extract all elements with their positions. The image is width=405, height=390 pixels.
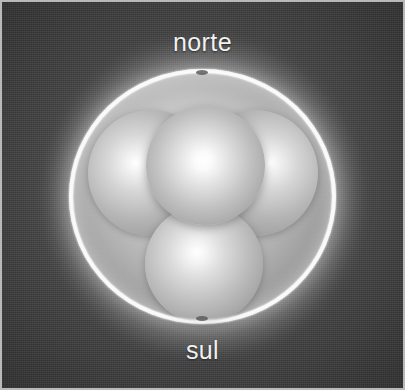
figure-canvas: norte sul — [0, 0, 405, 390]
plate-frame — [0, 0, 405, 390]
